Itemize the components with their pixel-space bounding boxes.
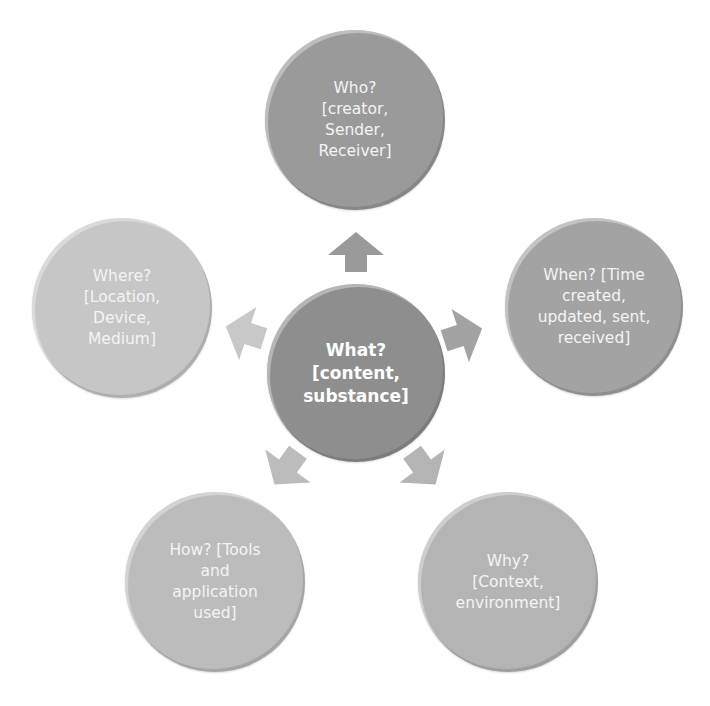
node-where-label: Where? [Location, Device, Medium] bbox=[70, 266, 175, 350]
node-why: Why? [Context, environment] bbox=[418, 492, 598, 672]
node-when-label: When? [Time created, updated, sent, rece… bbox=[524, 265, 665, 349]
node-when: When? [Time created, updated, sent, rece… bbox=[505, 218, 683, 396]
arrow-to-where-icon bbox=[217, 300, 272, 366]
node-how: How? [Tools and application used] bbox=[125, 492, 305, 672]
node-where: Where? [Location, Device, Medium] bbox=[32, 218, 212, 398]
node-how-label: How? [Tools and application used] bbox=[155, 540, 274, 624]
node-who-label: Who? [creator, Sender, Receiver] bbox=[304, 78, 405, 162]
node-what-center: What? [content, substance] bbox=[267, 284, 445, 462]
node-who: Who? [creator, Sender, Receiver] bbox=[265, 30, 445, 210]
node-why-label: Why? [Context, environment] bbox=[442, 551, 575, 614]
arrow-to-who-icon bbox=[328, 232, 384, 272]
node-what-label: What? [content, substance] bbox=[289, 339, 423, 408]
